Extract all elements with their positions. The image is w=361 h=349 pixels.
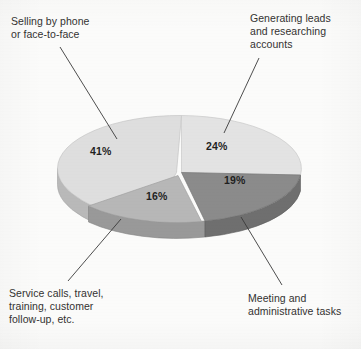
slice-label-meeting: Meeting and administrative tasks <box>248 292 341 318</box>
slice-label-generating: Generating leads and researching account… <box>250 12 331 52</box>
slice-label-service: Service calls, travel, training, custome… <box>9 287 104 327</box>
pie-3d-group <box>57 47 301 285</box>
leader-line-selling <box>60 47 117 139</box>
slice-value-selling: 41% <box>90 145 111 157</box>
slice-value-generating: 24% <box>206 140 227 152</box>
slice-label-selling: Selling by phone or face-to-face <box>11 15 89 41</box>
slice-value-meeting: 19% <box>224 174 245 186</box>
pie-slice-generating <box>182 116 302 176</box>
leader-line-meeting <box>241 217 282 285</box>
slice-value-service: 16% <box>146 190 167 202</box>
chart-page: 41% 24% 19% 16% Selling by phone or face… <box>0 0 361 349</box>
leader-line-service <box>68 219 121 281</box>
leader-line-generating <box>224 58 259 133</box>
